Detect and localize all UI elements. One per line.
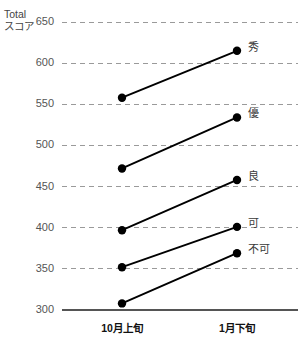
x-axis-tick-label: 10月上旬 [101,322,143,334]
data-point-marker [118,263,126,271]
series-annotation-label: 可 [248,218,259,229]
series-annotation-label: 良 [248,171,259,182]
series-annotation-label: 優 [248,108,259,119]
y-axis-tick-label: 450 [20,181,54,192]
data-point-marker [118,164,126,172]
y-axis-tick-label: 550 [20,98,54,109]
series-annotation-label: 不可 [248,244,270,255]
y-axis-tick-label: 350 [20,263,54,274]
y-axis-tick-label: 500 [20,139,54,150]
y-axis-tick-label: 650 [20,16,54,27]
data-point-marker [233,47,241,55]
slope-chart: Totalスコア 650600550500450400350300 10月上旬1… [0,0,307,346]
series-line [122,180,237,230]
data-point-marker [118,226,126,234]
data-point-marker [233,176,241,184]
y-axis-tick-label: 400 [20,222,54,233]
plot-area [0,0,307,346]
series-line [122,51,237,98]
y-axis-tick-label: 300 [20,304,54,315]
data-point-marker [233,223,241,231]
data-point-marker [233,249,241,257]
y-axis-tick-label: 600 [20,57,54,68]
data-point-marker [233,113,241,121]
series-annotation-label: 秀 [248,42,259,53]
data-point-marker [118,299,126,307]
data-point-marker [118,94,126,102]
series-line [122,117,237,168]
x-axis-tick-label: 1月下旬 [219,322,255,334]
